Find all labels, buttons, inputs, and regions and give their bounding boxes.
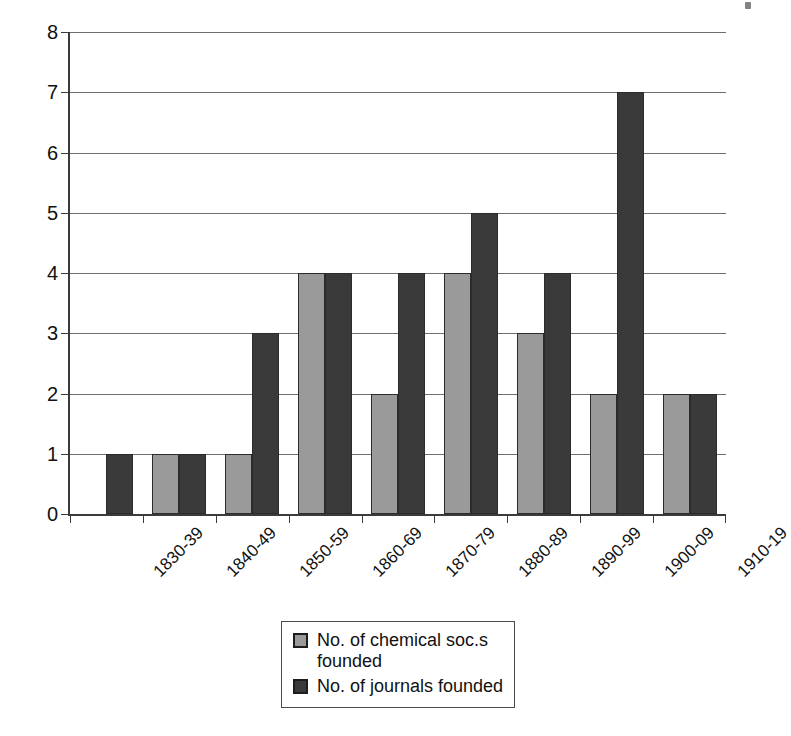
y-axis-tick xyxy=(61,153,70,154)
legend-label-line2: founded xyxy=(317,651,382,671)
y-axis-tick xyxy=(61,454,70,455)
legend-swatch-dark-icon xyxy=(293,679,308,694)
scan-artifact-mark xyxy=(745,2,751,9)
legend-swatch-light-icon xyxy=(293,633,308,648)
bar xyxy=(152,454,179,514)
x-axis-tick xyxy=(143,514,144,523)
bar xyxy=(398,273,425,514)
bar xyxy=(106,454,133,514)
x-axis-tick-label: 1860-69 xyxy=(369,524,425,580)
x-axis-tick xyxy=(653,514,654,523)
x-axis-tick xyxy=(289,514,290,523)
y-axis-tick-label: 3 xyxy=(16,323,58,343)
bar xyxy=(690,394,717,515)
x-axis-tick-label: 1830-39 xyxy=(151,524,207,580)
chart-legend: No. of chemical soc.s founded No. of jou… xyxy=(281,621,515,708)
legend-label-journals: No. of journals founded xyxy=(317,676,503,697)
x-axis-tick-label: 1910-19 xyxy=(734,524,790,580)
legend-label-line1: No. of chemical soc.s xyxy=(317,630,488,650)
x-axis-tick-label: 1900-09 xyxy=(661,524,717,580)
legend-item-journals: No. of journals founded xyxy=(293,676,504,697)
bar xyxy=(325,273,352,514)
y-axis-tick-label: 1 xyxy=(16,444,58,464)
y-axis-tick-label: 4 xyxy=(16,263,58,283)
y-axis-tick xyxy=(61,32,70,33)
gridline xyxy=(70,32,726,33)
x-axis-tick-label: 1850-59 xyxy=(296,524,352,580)
bar xyxy=(371,394,398,515)
bar xyxy=(252,333,279,514)
x-axis-tick xyxy=(507,514,508,523)
x-axis-tick xyxy=(70,514,71,523)
x-axis-tick xyxy=(580,514,581,523)
y-axis-tick xyxy=(61,394,70,395)
x-axis-tick-label: 1890-99 xyxy=(588,524,644,580)
y-axis-tick xyxy=(61,333,70,334)
plot-area xyxy=(68,32,726,516)
bar xyxy=(617,92,644,514)
y-axis-tick-label: 6 xyxy=(16,143,58,163)
bar xyxy=(471,213,498,514)
y-axis-tick xyxy=(61,514,70,515)
bar xyxy=(225,454,252,514)
x-axis-tick xyxy=(362,514,363,523)
y-axis-tick-label: 7 xyxy=(16,82,58,102)
x-axis-tick xyxy=(434,514,435,523)
y-axis-tick-label: 0 xyxy=(16,504,58,524)
legend-label-chemical-societies: No. of chemical soc.s founded xyxy=(317,630,488,672)
bar xyxy=(544,273,571,514)
y-axis-tick xyxy=(61,213,70,214)
x-axis-tick-label: 1840-49 xyxy=(224,524,280,580)
y-axis-tick-label: 8 xyxy=(16,22,58,42)
bar xyxy=(517,333,544,514)
x-axis-tick-label: 1870-79 xyxy=(442,524,498,580)
bar xyxy=(298,273,325,514)
y-axis-tick-label: 5 xyxy=(16,203,58,223)
y-axis-tick-label: 2 xyxy=(16,384,58,404)
y-axis-tick xyxy=(61,92,70,93)
x-axis-tick xyxy=(725,514,726,523)
bar xyxy=(663,394,690,515)
x-axis-tick xyxy=(216,514,217,523)
x-axis-tick-label: 1880-89 xyxy=(515,524,571,580)
legend-item-chemical-societies: No. of chemical soc.s founded xyxy=(293,630,504,672)
bar xyxy=(179,454,206,514)
bar xyxy=(444,273,471,514)
y-axis-tick xyxy=(61,273,70,274)
bar xyxy=(590,394,617,515)
